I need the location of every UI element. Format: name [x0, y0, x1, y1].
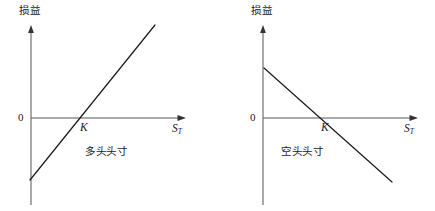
panel-caption: 空头头寸 — [281, 146, 323, 157]
x-axis-label-subscript: T — [178, 127, 182, 136]
origin-label: 0 — [250, 112, 256, 123]
short-position-plot — [218, 0, 435, 211]
panel-caption: 多头头寸 — [85, 146, 127, 157]
strike-label: K — [80, 122, 88, 134]
y-axis-arrow-icon — [260, 25, 266, 33]
y-axis-label: 损益 — [251, 5, 272, 16]
strike-label: K — [321, 122, 329, 134]
x-axis-label-subscript: T — [410, 127, 414, 136]
panel-short-position: 损益 0 K ST 空头头寸 — [218, 0, 435, 211]
x-axis-label: ST — [404, 123, 414, 135]
payoff-diagram-figure: 损益 0 K ST 多头头寸 损益 0 K ST 空头头寸 — [0, 0, 435, 211]
x-axis-arrow-icon — [178, 115, 187, 121]
origin-label: 0 — [18, 112, 24, 123]
y-axis-label: 损益 — [19, 5, 40, 16]
long-position-plot — [0, 0, 217, 211]
x-axis-label: ST — [172, 123, 182, 135]
panel-long-position: 损益 0 K ST 多头头寸 — [0, 0, 217, 211]
x-axis-arrow-icon — [410, 115, 419, 121]
y-axis-arrow-icon — [28, 25, 34, 33]
